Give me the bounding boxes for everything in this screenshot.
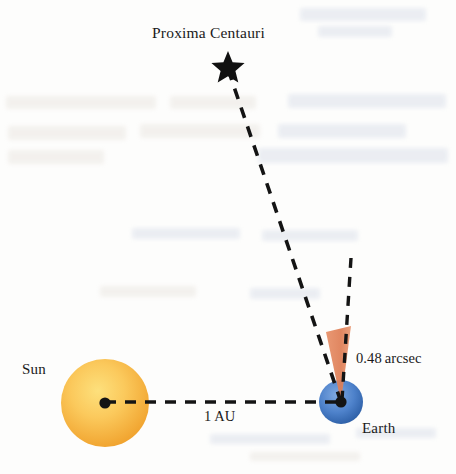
sun-label: Sun — [22, 362, 46, 377]
sightline-dashed-line — [229, 72, 341, 402]
sun-center-marker — [99, 397, 110, 408]
parallax-angle-unit: arcsec — [385, 350, 422, 366]
parallax-diagram-figure: Proxima Centauri Sun Earth 1 AU 0.48arcs… — [0, 0, 456, 474]
earth-center-marker — [335, 396, 346, 407]
parallax-angle-label: 0.48arcsec — [356, 351, 422, 366]
parallax-diagram-canvas — [0, 0, 456, 474]
parallax-angle-value: 0.48 — [356, 350, 382, 366]
star-icon — [211, 51, 244, 83]
earth-label: Earth — [362, 421, 395, 436]
baseline-distance-label: 1 AU — [204, 409, 235, 424]
star-title-label: Proxima Centauri — [152, 25, 265, 41]
